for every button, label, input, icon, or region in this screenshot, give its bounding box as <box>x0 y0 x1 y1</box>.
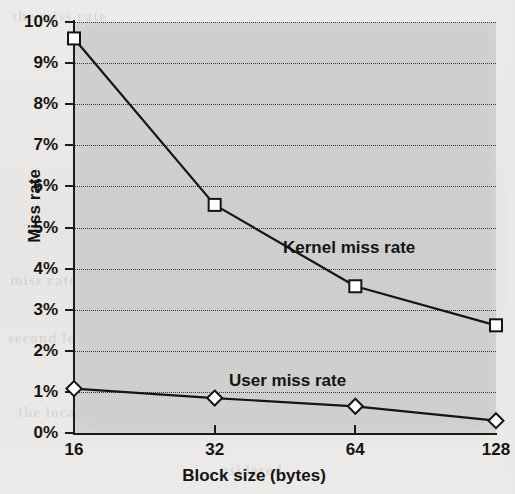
series-label-user: User miss rate <box>229 371 346 391</box>
data-point-marker-square <box>349 280 361 292</box>
series-label-kernel: Kernel miss rate <box>283 238 415 258</box>
data-point-marker-diamond <box>207 391 222 406</box>
data-point-marker-square <box>68 32 80 44</box>
data-point-marker-square <box>209 199 221 211</box>
y-axis-title: Miss rate <box>25 146 45 266</box>
series-line-user <box>74 389 496 421</box>
data-point-marker-square <box>490 319 502 331</box>
data-point-marker-diamond <box>489 413 504 428</box>
data-point-marker-diamond <box>348 399 363 414</box>
series-line-kernel <box>74 38 496 325</box>
data-point-marker-diamond <box>67 381 82 396</box>
x-axis-title: Block size (bytes) <box>0 466 508 486</box>
